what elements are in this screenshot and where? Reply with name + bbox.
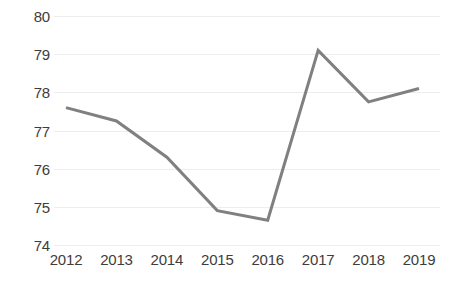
plot-area (54, 16, 440, 245)
x-tick-label: 2017 (302, 252, 335, 267)
y-tick-label: 77 (4, 124, 50, 139)
x-tick-label: 2012 (50, 252, 83, 267)
x-tick-label: 2019 (403, 252, 436, 267)
series-layer (54, 16, 440, 245)
data-series-line (66, 50, 419, 220)
x-tick-label: 2018 (352, 252, 385, 267)
x-axis: 20122013201420152016201720182019 (54, 252, 440, 276)
y-tick-label: 74 (4, 238, 50, 253)
y-tick-label: 79 (4, 47, 50, 62)
x-tick-label: 2014 (151, 252, 184, 267)
x-tick-label: 2013 (100, 252, 133, 267)
x-tick-label: 2015 (201, 252, 234, 267)
y-tick-label: 75 (4, 200, 50, 215)
line-chart: 80797877767574 2012201320142015201620172… (0, 0, 454, 284)
y-tick-label: 80 (4, 9, 50, 24)
y-tick-label: 78 (4, 85, 50, 100)
x-tick-label: 2016 (251, 252, 284, 267)
gridline (54, 245, 440, 246)
y-tick-label: 76 (4, 162, 50, 177)
y-axis: 80797877767574 (0, 0, 50, 284)
